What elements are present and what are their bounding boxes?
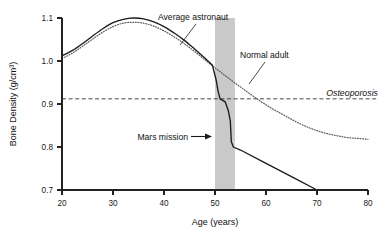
x-tick-label-50: 50	[210, 199, 220, 208]
x-axis-ticks	[62, 190, 368, 195]
mars-mission-band	[215, 18, 235, 190]
y-tick-label-0.8: 0.8	[42, 143, 54, 152]
y-tick-label-1.0: 1.0	[42, 57, 54, 66]
x-tick-label-20: 20	[57, 199, 67, 208]
average-astronaut-label: Average astronaut	[158, 12, 229, 22]
y-tick-label-0.9: 0.9	[42, 100, 54, 109]
x-axis-title: Age (years)	[192, 217, 239, 227]
y-axis-ticks	[57, 18, 62, 190]
x-tick-label-60: 60	[261, 199, 271, 208]
annotation-normal-adult: Normal adult	[240, 50, 289, 84]
x-tick-label-80: 80	[363, 199, 373, 208]
x-tick-label-30: 30	[108, 199, 118, 208]
bone-density-chart-figure: 1.1 1.0 0.9 0.8 0.7 20 30 40 50 60 70 80…	[0, 0, 390, 233]
mars-mission-arrow-head	[205, 134, 212, 140]
chart-canvas: 1.1 1.0 0.9 0.8 0.7 20 30 40 50 60 70 80…	[0, 0, 390, 233]
annotation-mars-mission: Mars mission	[137, 132, 212, 142]
y-tick-label-0.7: 0.7	[42, 186, 54, 195]
average-astronaut-curve	[62, 18, 317, 190]
y-tick-label-1.1: 1.1	[42, 14, 54, 23]
mars-mission-label: Mars mission	[137, 132, 188, 142]
osteoporosis-label: Osteoporosis	[326, 88, 378, 98]
y-axis-title: Bone Density (g/cm³)	[8, 62, 18, 147]
x-tick-label-70: 70	[312, 199, 322, 208]
normal-adult-label: Normal adult	[240, 50, 289, 60]
x-tick-label-40: 40	[159, 199, 169, 208]
